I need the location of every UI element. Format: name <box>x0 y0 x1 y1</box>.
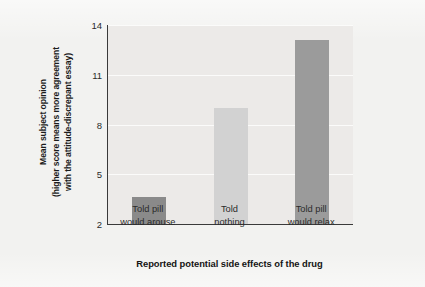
plot-area: 2581114 <box>107 25 353 225</box>
bar <box>295 40 329 224</box>
y-axis-tick-label: 5 <box>97 169 102 180</box>
x-axis-tick-label: Told pillwould relax <box>261 203 361 228</box>
y-axis-title: Mean subject opinion (higher score means… <box>30 14 82 229</box>
y-axis-tick-label: 14 <box>91 20 102 31</box>
x-axis-title: Reported potential side effects of the d… <box>107 258 352 269</box>
y-axis-tick-label: 8 <box>97 119 102 130</box>
y-axis-title-line-1: Mean subject opinion <box>37 47 50 197</box>
gridline <box>108 25 353 26</box>
y-axis-tick-label: 11 <box>92 69 102 80</box>
y-axis-title-line-3: with the attitude-discrepant essay) <box>62 47 75 197</box>
y-axis-title-line-2: (higher score means more agreement <box>50 47 63 197</box>
bar-chart-figure: Mean subject opinion (higher score means… <box>0 0 425 287</box>
